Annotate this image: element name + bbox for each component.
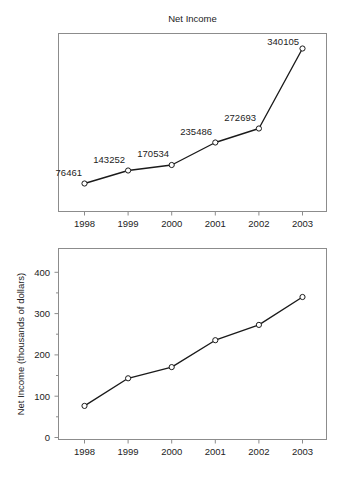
bottom-chart: Net Income (thousands of dollars) 0 100 … — [15, 249, 327, 458]
top-chart-xtick-marks — [85, 212, 303, 216]
bottom-chart-xtick-1999: 1999 — [118, 446, 139, 457]
top-chart-value-label-2002: 272693 — [224, 112, 256, 123]
bottom-chart-markers — [82, 294, 305, 408]
bottom-chart-ytick-0: 0 — [45, 432, 50, 443]
top-chart-xtick-2000: 2000 — [161, 218, 182, 229]
bottom-chart-ytick-400: 400 — [34, 267, 50, 278]
top-chart-marker-2001 — [213, 140, 218, 145]
top-chart-marker-2002 — [256, 126, 261, 131]
top-chart-marker-1998 — [82, 181, 87, 186]
bottom-chart-xtick-2000: 2000 — [161, 446, 182, 457]
top-chart-value-label-2000: 170534 — [137, 148, 169, 159]
bottom-chart-xtick-2002: 2002 — [248, 446, 269, 457]
top-chart-value-label-2001: 235486 — [180, 126, 212, 137]
top-chart-marker-2003 — [300, 46, 305, 51]
bottom-chart-xtick-marks — [85, 440, 303, 444]
bottom-chart-xtick-1998: 1998 — [74, 446, 95, 457]
bottom-chart-marker-2001 — [213, 338, 218, 343]
top-chart-title: Net Income — [168, 13, 217, 24]
bottom-chart-xtick-2003: 2003 — [292, 446, 313, 457]
top-chart-value-label-1999: 143252 — [93, 154, 125, 165]
top-chart-plot-frame — [59, 34, 327, 212]
bottom-chart-marker-2003 — [300, 294, 305, 299]
bottom-chart-marker-2002 — [256, 322, 261, 327]
bottom-chart-marker-2000 — [169, 365, 174, 370]
top-chart-markers — [82, 46, 305, 186]
top-chart-xtick-2001: 2001 — [205, 218, 226, 229]
bottom-chart-xtick-2001: 2001 — [205, 446, 226, 457]
bottom-chart-ytick-100: 100 — [34, 391, 50, 402]
figure-container: Net Income — [0, 0, 345, 481]
bottom-chart-ytick-200: 200 — [34, 349, 50, 360]
bottom-chart-series-line — [85, 297, 303, 406]
top-chart-marker-2000 — [169, 162, 174, 167]
top-chart-xtick-1999: 1999 — [118, 218, 139, 229]
bottom-chart-plot-frame — [59, 249, 327, 440]
bottom-chart-ytick-marks — [55, 272, 59, 437]
top-chart-xtick-1998: 1998 — [74, 218, 95, 229]
bottom-chart-y-axis-title: Net Income (thousands of dollars) — [15, 273, 26, 416]
top-chart-value-label-1998: 76461 — [56, 167, 82, 178]
bottom-chart-ytick-300: 300 — [34, 308, 50, 319]
bottom-chart-marker-1998 — [82, 403, 87, 408]
top-chart-xtick-2003: 2003 — [292, 218, 313, 229]
top-chart: Net Income — [56, 13, 327, 229]
dual-line-chart-figure: Net Income — [0, 0, 345, 481]
top-chart-marker-1999 — [126, 168, 131, 173]
top-chart-value-label-2003: 340105 — [267, 36, 299, 47]
top-chart-xtick-2002: 2002 — [248, 218, 269, 229]
bottom-chart-marker-1999 — [126, 376, 131, 381]
